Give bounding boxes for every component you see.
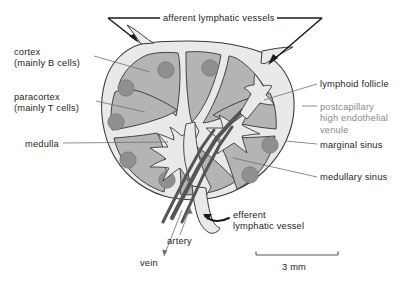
label-cortex: cortex (mainly B cells) [14,47,80,70]
scale-bar [256,252,338,256]
lymphoid-follicle [202,60,218,76]
label-artery: artery [167,236,192,247]
lymphoid-follicle [108,114,124,130]
label-afferent-lymphatic-vessels: afferent lymphatic vessels [163,13,275,24]
lymphoid-follicle [120,152,136,168]
lymphoid-follicle [118,80,134,96]
lymphoid-follicle [158,62,174,78]
label-marginal-sinus: marginal sinus [320,140,383,151]
leader-marginal-sinus [286,141,317,144]
label-medulla: medulla [25,139,59,150]
lymph-node-figure: cortex (mainly B cells) paracortex (main… [0,0,411,288]
scale-bar-caption: 3 mm [282,262,306,273]
leader-afferent-right-diag [271,18,322,62]
label-vein: vein [140,258,158,269]
lymphoid-follicle [262,137,278,153]
lymphoid-follicle [242,167,258,183]
label-postcapillary-high-endothelial-venule: postcapillary high endothelial venule [320,102,388,136]
label-medullary-sinus: medullary sinus [320,172,387,183]
label-efferent-lymphatic-vessel: efferent lymphatic vessel [233,210,304,233]
label-lymphoid-follicle: lymphoid follicle [320,79,389,90]
label-paracortex: paracortex (mainly T cells) [14,92,79,115]
